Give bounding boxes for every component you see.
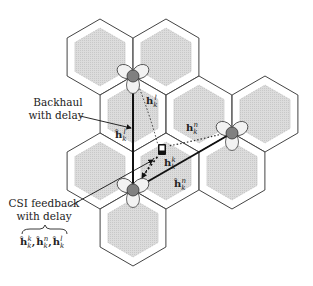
hexagonal-cell-grid: [67, 19, 298, 266]
backhaul-label-line1: Backhaul: [33, 96, 83, 108]
base-station-node-icon: [226, 127, 238, 139]
csi-label-line1: CSI feedback: [9, 197, 81, 209]
csi-label-line2: with delay: [16, 210, 71, 222]
base-station-node-icon: [127, 184, 139, 196]
base-station-node-icon: [127, 70, 139, 82]
csi-feedback-annotation: CSI feedback with delay ĥkk,ĥkn,ĥkl: [9, 197, 81, 250]
network-diagram: hkl hkn hkk ĥkl ĥkn Backhaul with delay …: [0, 0, 313, 286]
backhaul-label-line2: with delay: [28, 109, 83, 121]
overbrace: [22, 225, 67, 234]
mobile-phone-icon: [158, 144, 166, 155]
backhaul-annotation: Backhaul with delay: [28, 96, 83, 121]
csi-set-label: ĥkk,ĥkn,ĥkl: [19, 235, 64, 250]
